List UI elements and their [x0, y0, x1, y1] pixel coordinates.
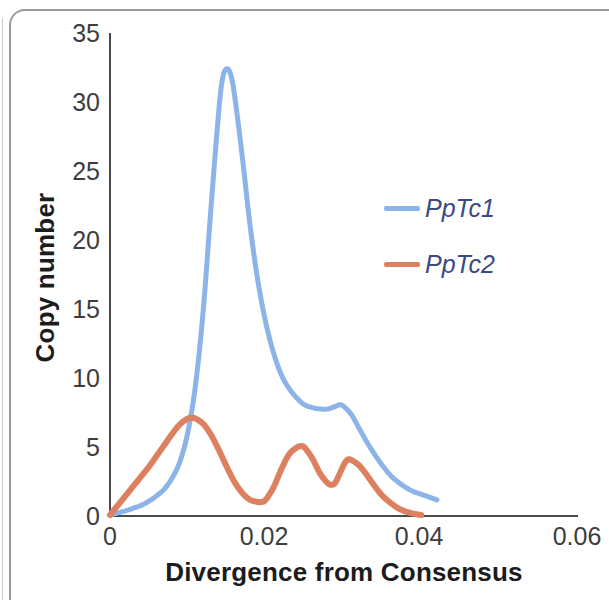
x-axis-title: Divergence from Consensus [109, 557, 579, 588]
legend-swatch-pptc1 [384, 206, 420, 211]
legend-item-pptc1: PpTc1 [384, 180, 564, 236]
x-tick-0.02: 0.02 [219, 524, 309, 549]
x-tick-0.06: 0.06 [532, 524, 609, 549]
series-line-pptc2 [110, 418, 421, 515]
legend-swatch-pptc2 [384, 262, 420, 267]
chart-plot-area: 35 30 25 20 15 10 5 0 0 0.02 0.04 0.06 C… [0, 0, 609, 600]
x-tick-0: 0 [65, 524, 155, 549]
chart-legend: PpTc1 PpTc2 [384, 180, 564, 292]
x-axis-line [109, 515, 578, 517]
legend-label-pptc1: PpTc1 [425, 194, 495, 223]
legend-item-pptc2: PpTc2 [384, 236, 564, 292]
figure-container: 35 30 25 20 15 10 5 0 0 0.02 0.04 0.06 C… [0, 0, 609, 600]
y-axis-title: Copy number [30, 153, 61, 403]
y-axis-line [109, 33, 111, 517]
x-tick-0.04: 0.04 [374, 524, 464, 549]
legend-label-pptc2: PpTc2 [425, 250, 495, 279]
